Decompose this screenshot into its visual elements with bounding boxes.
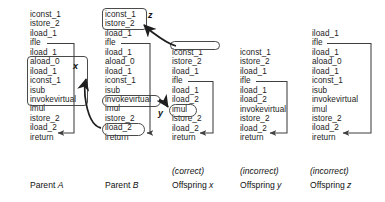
instruction-item: iconst_1 [30, 76, 76, 85]
instruction-item: iload_1 [105, 29, 151, 38]
caption-prefix: Offspring [172, 180, 207, 190]
instruction-item: ifle [172, 76, 203, 85]
instruction-item: istore_2 [240, 114, 286, 123]
instruction-item: istore_2 [172, 114, 203, 123]
figure-canvas: iconst_1 istore_2 iload_1 ifle iload_1 a… [0, 0, 385, 202]
instruction-item: istore_2 [312, 114, 358, 123]
caption-offspring-x: Offspring x [172, 180, 213, 191]
caption-offspring-y: Offspring y [240, 180, 281, 191]
caption-offspring-z: Offspring z [310, 180, 351, 191]
instruction-item: ireturn [172, 133, 203, 142]
instruction-list-offspring-z: iload_1 ifle iload_1 aload_0 iload_1 ico… [312, 29, 358, 142]
instruction-item: iload_1 [30, 29, 76, 38]
crossover-arrow-y [159, 100, 168, 107]
instruction-item: invokevirtual [240, 105, 286, 114]
instruction-item: iload_2 [172, 124, 203, 133]
caption-parent-b: Parent B [105, 180, 138, 191]
caption-id: B [133, 180, 139, 190]
instruction-item: aload_0 [30, 57, 76, 66]
instruction-item: imul [312, 105, 358, 114]
instruction-list-offspring-y: iconst_1 istore_2 iload_1 ifle iload_1 i… [240, 48, 286, 142]
column-parent-a: iconst_1 istore_2 iload_1 ifle iload_1 a… [30, 10, 76, 142]
instruction-item: istore_2 [30, 19, 76, 28]
instruction-item: iconst_1 [105, 76, 151, 85]
caption-id: y [277, 180, 281, 190]
instruction-item: ifle [30, 38, 76, 47]
instruction-item: ifle [240, 76, 286, 85]
column-offspring-y: iconst_1 istore_2 iload_1 ifle iload_1 i… [240, 48, 286, 142]
instruction-item: istore_2 [105, 114, 151, 123]
instruction-item: istore_2 [172, 57, 203, 66]
instruction-item: iconst_1 [312, 76, 358, 85]
column-offspring-z: iload_1 ifle iload_1 aload_0 iload_1 ico… [312, 29, 358, 142]
instruction-item: ireturn [30, 133, 76, 142]
instruction-item: imul [105, 104, 151, 113]
instruction-item: ireturn [105, 133, 151, 142]
instruction-item: iconst_1 [105, 10, 151, 19]
sub-caption-offspring-x: (correct) [172, 166, 204, 177]
instruction-item: ireturn [240, 133, 286, 142]
caption-prefix: Offspring [240, 180, 275, 190]
instruction-item: aload_0 [105, 57, 151, 66]
arrow-label-x: x [73, 61, 78, 71]
caption-prefix: Offspring [310, 180, 345, 190]
instruction-item: iload_1 [30, 67, 76, 76]
caption-id: z [347, 180, 351, 190]
instruction-item: istore_2 [105, 19, 151, 28]
instruction-item: istore_2 [30, 114, 76, 123]
instruction-list-offspring-x: iconst_1 istore_2 iload_1 ifle iload_1 i… [172, 48, 203, 142]
instruction-item: ifle [312, 38, 358, 47]
instruction-item: iload_1 [105, 48, 151, 57]
instruction-item: iconst_1 [30, 10, 76, 19]
arrow-label-z: z [148, 10, 153, 20]
instruction-item: iload_1 [312, 67, 358, 76]
instruction-item: iload_2 [312, 123, 358, 132]
instruction-item: istore_2 [240, 57, 286, 66]
instruction-item: iload_1 [240, 86, 286, 95]
instruction-item: iload_1 [240, 67, 286, 76]
instruction-item: iload_1 [172, 86, 203, 95]
instruction-item: iload_1 [312, 29, 358, 38]
instruction-item: invokevirtual [105, 95, 151, 104]
caption-id: x [209, 180, 213, 190]
instruction-item: iload_1 [312, 48, 358, 57]
instruction-item: ifle [105, 38, 151, 47]
instruction-item: imul [172, 105, 203, 114]
instruction-item: isub [30, 86, 76, 95]
caption-prefix: Parent [30, 180, 55, 190]
instruction-item: iconst_1 [240, 48, 286, 57]
sub-caption-offspring-y: (incorrect) [240, 166, 279, 177]
instruction-item: iload_2 [240, 95, 286, 104]
crossover-arrow-x [85, 79, 101, 128]
instruction-item: isub [105, 86, 151, 95]
instruction-item: iload_1 [105, 67, 151, 76]
instruction-list-parent-b: iconst_1 istore_2 iload_1 ifle iload_1 a… [105, 10, 151, 142]
instruction-item: iload_2 [172, 95, 203, 104]
instruction-item: iload_1 [172, 67, 203, 76]
caption-prefix: Parent [105, 180, 130, 190]
arrow-label-y: y [158, 108, 163, 118]
instruction-item: invokevirtual [312, 95, 358, 104]
instruction-list-parent-a: iconst_1 istore_2 iload_1 ifle iload_1 a… [30, 10, 76, 142]
instruction-item: isub [312, 86, 358, 95]
instruction-item: ireturn [312, 133, 358, 142]
instruction-item: iload_1 [30, 48, 76, 57]
caption-id: A [58, 180, 64, 190]
caption-parent-a: Parent A [30, 180, 63, 191]
instruction-item: iload_2 [240, 124, 286, 133]
instruction-item: invokevirtual [30, 95, 76, 104]
sub-caption-offspring-z: (incorrect) [310, 166, 349, 177]
instruction-item: iload_2 [30, 123, 76, 132]
instruction-item: iconst_1 [172, 48, 203, 57]
instruction-item: aload_0 [312, 57, 358, 66]
column-parent-b: iconst_1 istore_2 iload_1 ifle iload_1 a… [105, 10, 151, 142]
instruction-item: iload_2 [105, 123, 151, 132]
instruction-item: imul [30, 104, 76, 113]
column-offspring-x: iconst_1 istore_2 iload_1 ifle iload_1 i… [172, 48, 203, 142]
